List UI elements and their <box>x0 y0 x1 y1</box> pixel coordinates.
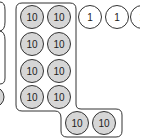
ten-coin: 10 <box>48 33 71 56</box>
ten-coin: 10 <box>21 6 44 29</box>
ten-coin-label: 10 <box>53 12 65 23</box>
coin-diagram: 10101010101010101010 111 <box>0 0 140 140</box>
ten-coin: 10 <box>21 86 44 109</box>
tens-coins: 10101010101010101010 <box>21 6 116 135</box>
ten-coin-label: 10 <box>26 39 38 50</box>
ten-coin-label: 10 <box>26 12 38 23</box>
ones-coins: 111 <box>79 6 141 29</box>
ten-coin-label: 10 <box>53 39 65 50</box>
ten-coin-label: 10 <box>26 66 38 77</box>
ten-coin: 10 <box>66 112 89 135</box>
ten-coin-label: 10 <box>53 92 65 103</box>
ten-coin: 10 <box>21 60 44 83</box>
ten-coin-label: 10 <box>71 118 83 129</box>
ten-coin: 10 <box>48 86 71 109</box>
ten-coin: 10 <box>48 60 71 83</box>
one-coin-label: 1 <box>139 12 140 23</box>
one-coin: 1 <box>131 6 141 29</box>
ten-coin-label: 10 <box>53 66 65 77</box>
left-partial-container <box>0 2 5 84</box>
ten-coin: 10 <box>48 6 71 29</box>
ten-coin: 10 <box>21 33 44 56</box>
one-coin-label: 1 <box>87 12 93 23</box>
one-coin-label: 1 <box>114 12 120 23</box>
left-partial-coin <box>0 87 4 107</box>
one-coin: 1 <box>106 6 129 29</box>
one-coin: 1 <box>79 6 102 29</box>
ten-coin-label: 10 <box>98 118 110 129</box>
ten-coin: 10 <box>93 112 116 135</box>
ten-coin-label: 10 <box>26 92 38 103</box>
